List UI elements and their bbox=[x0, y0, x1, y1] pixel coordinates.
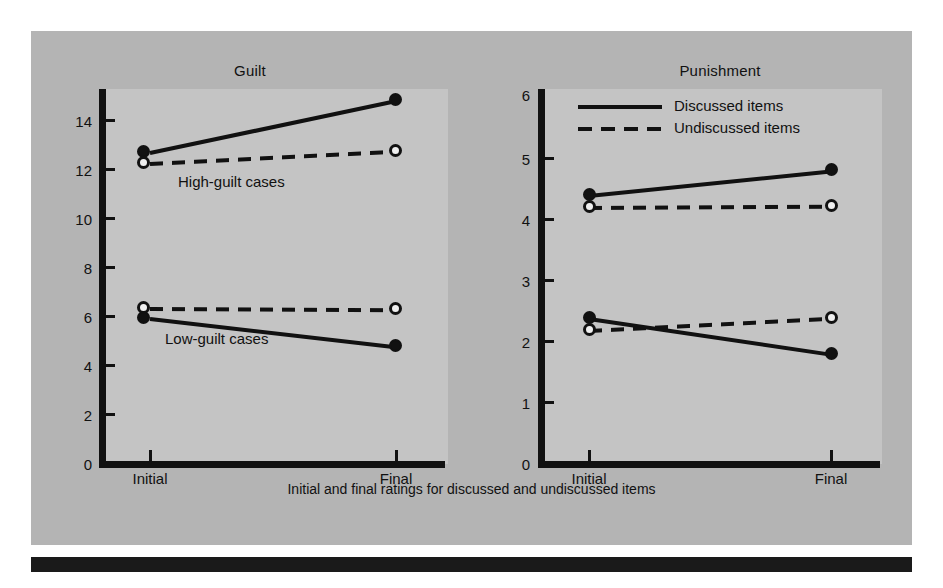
y-tick-punishment bbox=[545, 218, 554, 221]
y-tick-guilt bbox=[106, 168, 115, 171]
y-tick-label-guilt: 4 bbox=[48, 358, 92, 375]
data-point-high-guilt-undiscussed-initial bbox=[137, 156, 150, 169]
y-tick-label-guilt: 0 bbox=[48, 456, 92, 473]
legend-label-discussed: Discussed items bbox=[674, 97, 783, 114]
y-tick-punishment bbox=[545, 340, 554, 343]
y-tick-label-guilt: 6 bbox=[48, 309, 92, 326]
figure-root: Guilt 0 2 4 6 8 10 12 14 Initial Final bbox=[0, 0, 943, 588]
y-tick-guilt bbox=[106, 315, 115, 318]
legend-row-discussed: Discussed items bbox=[578, 97, 858, 117]
x-tick-guilt bbox=[149, 450, 152, 461]
y-tick-guilt bbox=[106, 119, 115, 122]
y-axis-spine-punishment bbox=[538, 89, 545, 468]
y-tick-label-punishment: 0 bbox=[496, 456, 530, 473]
legend-row-undiscussed: Undiscussed items bbox=[578, 119, 858, 139]
data-point-punish-high-discussed-final bbox=[825, 163, 838, 176]
y-tick-guilt bbox=[106, 364, 115, 367]
y-tick-label-punishment: 2 bbox=[496, 334, 530, 351]
x-tick-guilt bbox=[395, 450, 398, 461]
chart-panel-guilt: Guilt 0 2 4 6 8 10 12 14 Initial Final bbox=[0, 0, 470, 514]
y-tick-label-guilt: 14 bbox=[48, 113, 92, 130]
legend-punishment: Discussed items Undiscussed items bbox=[578, 97, 858, 145]
x-axis-spine-punishment bbox=[538, 461, 880, 468]
x-axis-spine-guilt bbox=[99, 461, 445, 468]
x-tick-punishment bbox=[830, 450, 833, 461]
annotation-high-guilt-cases: High-guilt cases bbox=[178, 173, 285, 190]
data-point-punish-low-undiscussed-final bbox=[825, 311, 838, 324]
legend-label-undiscussed: Undiscussed items bbox=[674, 119, 800, 136]
x-tick-punishment bbox=[588, 450, 591, 461]
y-tick-label-guilt: 12 bbox=[48, 162, 92, 179]
chart-panel-punishment: Punishment 0 1 2 3 4 5 6 Initial Final D… bbox=[440, 0, 881, 514]
y-tick-punishment bbox=[545, 401, 554, 404]
y-tick-guilt bbox=[106, 217, 115, 220]
y-tick-punishment bbox=[545, 462, 554, 465]
y-tick-label-punishment: 4 bbox=[496, 212, 530, 229]
y-tick-label-punishment: 3 bbox=[496, 273, 530, 290]
figure-caption: Initial and final ratings for discussed … bbox=[31, 481, 912, 497]
data-point-punish-low-discussed-final bbox=[825, 347, 838, 360]
y-tick-label-punishment: 1 bbox=[496, 395, 530, 412]
y-tick-guilt bbox=[106, 266, 115, 269]
panel-title-punishment: Punishment bbox=[590, 62, 850, 79]
legend-swatch-dashed-line bbox=[578, 127, 662, 131]
annotation-low-guilt-cases: Low-guilt cases bbox=[165, 330, 268, 347]
legend-swatch-solid-line bbox=[578, 105, 662, 109]
y-tick-label-punishment: 6 bbox=[496, 87, 530, 104]
y-tick-label-guilt: 2 bbox=[48, 407, 92, 424]
data-point-low-guilt-undiscussed-final bbox=[389, 302, 402, 315]
y-tick-label-punishment: 5 bbox=[496, 151, 530, 168]
data-point-punish-low-undiscussed-initial bbox=[583, 323, 596, 336]
bottom-rule bbox=[31, 557, 912, 572]
data-point-high-guilt-undiscussed-final bbox=[389, 144, 402, 157]
plot-area-punishment bbox=[543, 89, 882, 464]
data-point-low-guilt-discussed-initial bbox=[137, 311, 150, 324]
y-tick-label-guilt: 10 bbox=[48, 211, 92, 228]
y-tick-label-guilt: 8 bbox=[48, 260, 92, 277]
y-tick-guilt bbox=[106, 413, 115, 416]
data-point-high-guilt-discussed-final bbox=[389, 93, 402, 106]
y-tick-guilt bbox=[106, 462, 115, 465]
y-axis-spine-guilt bbox=[99, 89, 106, 468]
y-tick-punishment bbox=[545, 279, 554, 282]
data-point-low-guilt-discussed-final bbox=[389, 339, 402, 352]
data-point-punish-high-undiscussed-initial bbox=[583, 200, 596, 213]
panel-title-guilt: Guilt bbox=[120, 62, 380, 79]
y-tick-punishment bbox=[545, 157, 554, 160]
data-point-punish-high-undiscussed-final bbox=[825, 199, 838, 212]
